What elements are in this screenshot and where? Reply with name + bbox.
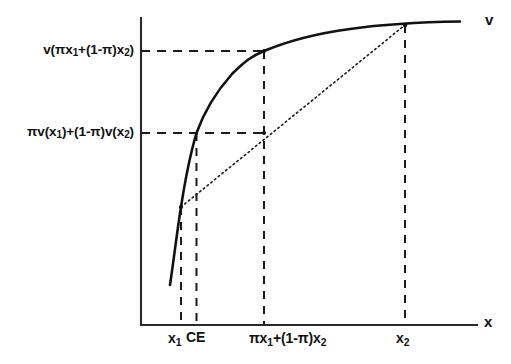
- ytick0-prefix: v(πx: [43, 42, 72, 57]
- marker-point-mixture-on-chord: [262, 131, 266, 135]
- value-function-curve: [170, 22, 460, 286]
- xtick-label-mixture-x: πx1+(1-π)x2: [249, 331, 326, 348]
- xtick-label-x2: x2: [396, 331, 409, 348]
- x-axis-label: x: [484, 314, 492, 329]
- y-axis-label: v: [485, 12, 493, 27]
- xtick-label-x1: x1: [168, 331, 181, 348]
- xtick3-prefix: x: [396, 330, 404, 346]
- ytick1-prefix: πv(x: [27, 124, 56, 139]
- marker-point-x2: [403, 23, 408, 28]
- marker-point-x1: [179, 205, 183, 209]
- ytick0-suffix: ): [130, 42, 134, 57]
- xtick3-sub1: 2: [404, 337, 410, 348]
- ytick-label-mixture-of-v: πv(x1)+(1-π)v(x2): [27, 125, 134, 140]
- xtick2-mid: +(1-π)x: [273, 330, 321, 346]
- figure-root: v x v(πx1+(1-π)x2) πv(x1)+(1-π)v(x2) x1 …: [0, 0, 511, 364]
- xtick2-sub2: 2: [321, 337, 327, 348]
- marker-point-mixture-on-curve: [262, 49, 266, 53]
- ytick0-mid: +(1-π)x: [78, 42, 124, 57]
- chord-line: [181, 25, 405, 207]
- xtick2-prefix: πx: [249, 330, 267, 346]
- ytick-label-v-of-mixture: v(πx1+(1-π)x2): [43, 43, 134, 58]
- xtick-label-ce: CE: [186, 330, 205, 344]
- ytick1-mid: )+(1-π)v(x: [62, 124, 124, 139]
- xtick0-sub1: 1: [176, 337, 182, 348]
- xtick0-prefix: x: [168, 330, 176, 346]
- ytick1-suffix: ): [130, 124, 134, 139]
- xtick1-prefix: CE: [186, 329, 205, 345]
